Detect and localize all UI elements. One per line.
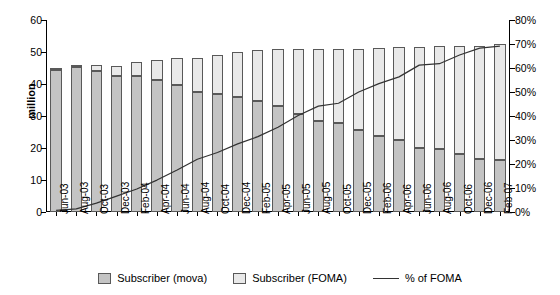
plot-area — [46, 20, 510, 212]
x-tick-label: Feb-06 — [383, 182, 393, 214]
y-tick-right — [510, 44, 515, 45]
y-tick-right — [510, 68, 515, 69]
y-tick-right — [510, 92, 515, 93]
x-tick-label: Jun-04 — [181, 183, 191, 214]
chart-legend: Subscriber (mova)Subscriber (FOMA)% of F… — [0, 265, 560, 291]
x-tick-label: Apr-05 — [282, 184, 292, 214]
x-tick-label: Dec-05 — [363, 182, 373, 214]
legend-label: Subscriber (FOMA) — [252, 272, 347, 284]
x-tick-label: Feb-07 — [504, 182, 514, 214]
legend-item[interactable]: % of FOMA — [373, 272, 462, 284]
legend-item[interactable]: Subscriber (FOMA) — [233, 272, 347, 284]
x-tick-label: Oct-06 — [464, 184, 474, 214]
x-tick-label: Dec-04 — [242, 182, 252, 214]
x-tick-label: Aug-06 — [443, 182, 453, 214]
x-tick-label: Feb-04 — [141, 182, 151, 214]
y-tick-right — [510, 164, 515, 165]
x-tick-label: Aug-04 — [201, 182, 211, 214]
legend-label: Subscriber (mova) — [117, 272, 207, 284]
square-swatch-icon — [98, 273, 111, 284]
y-tick-right — [510, 140, 515, 141]
x-tick-label: Dec-06 — [484, 182, 494, 214]
legend-item[interactable]: Subscriber (mova) — [98, 272, 207, 284]
line-swatch-icon — [373, 278, 399, 279]
percent-of-foma-line — [46, 20, 510, 212]
y-tick-right — [510, 116, 515, 117]
x-tick-label: Oct-05 — [343, 184, 353, 214]
y-axis-left-title: million — [25, 66, 37, 136]
legend-label: % of FOMA — [405, 272, 462, 284]
x-tick-label: Apr-04 — [161, 184, 171, 214]
x-tick-label: Jun-03 — [60, 183, 70, 214]
y-tick-right — [510, 20, 515, 21]
y-axis-right-labels: 0%10%20%30%40%50%60%70%80% — [515, 20, 560, 212]
y-tick-label-right: 0% — [515, 207, 530, 217]
x-tick-label: Jun-05 — [302, 183, 312, 214]
x-tick-label: Dec-03 — [121, 182, 131, 214]
y-tick-label-right: 60% — [515, 63, 536, 73]
y-tick-label-right: 50% — [515, 87, 536, 97]
x-tick-label: Oct-04 — [221, 184, 231, 214]
x-tick-label: Feb-05 — [262, 182, 272, 214]
square-swatch-icon — [233, 273, 246, 284]
y-tick-label-right: 80% — [515, 15, 536, 25]
y-tick-label-right: 70% — [515, 39, 536, 49]
x-tick-label: Aug-03 — [80, 182, 90, 214]
x-tick-label: Aug-05 — [322, 182, 332, 214]
x-tick-label: Apr-06 — [403, 184, 413, 214]
chart-container: 0102030405060 million 0%10%20%30%40%50%6… — [0, 0, 560, 295]
y-tick-label-right: 20% — [515, 159, 536, 169]
x-axis-labels: Jun-03Aug-03Oct-03Dec-03Feb-04Apr-04Jun-… — [46, 214, 510, 260]
x-tick-label: Oct-03 — [100, 184, 110, 214]
x-tick-label: Jun-06 — [423, 183, 433, 214]
y-tick-label-right: 10% — [515, 183, 536, 193]
y-tick-label-right: 40% — [515, 111, 536, 121]
y-tick-label-right: 30% — [515, 135, 536, 145]
